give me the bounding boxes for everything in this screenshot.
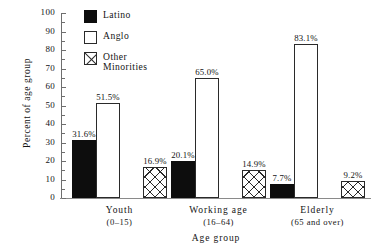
y-tick-mark-minor bbox=[62, 78, 65, 79]
bar-chart: Percent of age group 1009080706050403020… bbox=[0, 0, 383, 252]
y-tick-mark-minor bbox=[62, 41, 65, 42]
y-tick-mark bbox=[62, 32, 66, 33]
y-tick-mark bbox=[62, 180, 66, 181]
y-tick-label: 40 bbox=[29, 118, 55, 128]
y-tick-mark bbox=[62, 143, 66, 144]
bar-value-label: 31.6% bbox=[72, 129, 96, 139]
y-tick-mark-minor bbox=[62, 96, 65, 97]
legend-item-other-minorities: Other Minorities bbox=[84, 51, 204, 68]
legend-swatch-anglo-icon bbox=[84, 31, 97, 44]
y-tick-label: 60 bbox=[29, 81, 55, 91]
bar-latino-elderly: 7.7% bbox=[270, 184, 294, 198]
bar-anglo-youth: 51.5% bbox=[96, 103, 120, 198]
legend-swatch-latino-icon bbox=[84, 10, 97, 23]
y-tick-mark-minor bbox=[62, 170, 65, 171]
legend-item-latino: Latino bbox=[84, 9, 204, 26]
y-tick-mark bbox=[62, 161, 66, 162]
y-tick-label: 90 bbox=[29, 26, 55, 36]
bar-latino-working-age: 20.1% bbox=[171, 161, 195, 198]
y-tick-mark bbox=[62, 124, 66, 125]
y-tick-mark bbox=[62, 198, 66, 199]
legend-label-latino: Latino bbox=[103, 9, 131, 20]
x-category-range: (65 and over) bbox=[250, 217, 383, 227]
y-tick-label: 30 bbox=[29, 137, 55, 147]
y-tick-label: 70 bbox=[29, 63, 55, 73]
legend-label-anglo: Anglo bbox=[103, 30, 129, 41]
y-tick-mark-minor bbox=[62, 189, 65, 190]
bar-value-label: 83.1% bbox=[294, 33, 318, 43]
y-tick-mark bbox=[62, 69, 66, 70]
bar-value-label: 20.1% bbox=[171, 150, 195, 160]
bar-other-elderly: 9.2% bbox=[341, 181, 365, 198]
x-axis-line bbox=[60, 198, 371, 199]
bar-value-label: 51.5% bbox=[96, 92, 120, 102]
y-tick-mark bbox=[62, 106, 66, 107]
y-tick-mark-minor bbox=[62, 22, 65, 23]
y-tick-mark bbox=[62, 50, 66, 51]
bar-anglo-elderly: 83.1% bbox=[294, 44, 318, 198]
y-tick-mark-minor bbox=[62, 152, 65, 153]
x-category-name: Elderly bbox=[250, 205, 383, 215]
legend-item-anglo: Anglo bbox=[84, 30, 204, 47]
bar-other-working-age: 14.9% bbox=[242, 170, 266, 198]
y-tick-mark-minor bbox=[62, 115, 65, 116]
y-tick-label: 0 bbox=[29, 192, 55, 202]
x-category-elderly: Elderly(65 and over) bbox=[250, 205, 383, 227]
bar-value-label: 7.7% bbox=[272, 173, 291, 183]
bar-other-youth: 16.9% bbox=[143, 167, 167, 198]
y-tick-label: 50 bbox=[29, 100, 55, 110]
y-tick-mark bbox=[62, 87, 66, 88]
legend: Latino Anglo Other Minorities bbox=[84, 9, 204, 72]
bar-value-label: 16.9% bbox=[143, 156, 167, 166]
bar-value-label: 9.2% bbox=[343, 170, 362, 180]
y-tick-label: 100 bbox=[29, 7, 55, 17]
x-axis-title: Age group bbox=[61, 233, 371, 243]
y-tick-mark bbox=[62, 13, 66, 14]
y-tick-label: 80 bbox=[29, 44, 55, 54]
y-tick-label: 10 bbox=[29, 174, 55, 184]
legend-label-other-minorities: Other Minorities bbox=[103, 51, 147, 72]
bar-latino-youth: 31.6% bbox=[72, 140, 96, 198]
y-tick-mark-minor bbox=[62, 133, 65, 134]
y-tick-mark-minor bbox=[62, 59, 65, 60]
y-tick-label: 20 bbox=[29, 155, 55, 165]
bar-value-label: 14.9% bbox=[242, 159, 266, 169]
legend-swatch-other-minorities-icon bbox=[84, 52, 97, 65]
bar-anglo-working-age: 65.0% bbox=[195, 78, 219, 198]
